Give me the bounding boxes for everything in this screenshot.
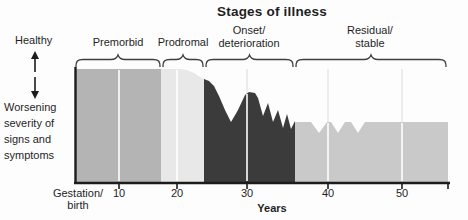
chart-title: Stages of illness	[122, 5, 422, 18]
x-tick-label-20: 20	[147, 187, 207, 199]
y-axis-worsening-label: Worsening severity of signs and symptoms	[4, 99, 76, 163]
arrow-up-head	[31, 51, 39, 59]
stage-label-onset-deterioration: Onset/ deterioration	[189, 24, 309, 50]
healthy-worse-arrow-icon	[31, 51, 39, 99]
x-axis-title: Years	[242, 202, 302, 215]
y-axis-healthy-label: Healthy	[15, 34, 52, 47]
stages-of-illness-figure: Stages of illness Healthy Worsening seve…	[0, 0, 468, 220]
stage-area-premorbid	[75, 69, 161, 182]
stage-area-residual-stable	[295, 122, 448, 182]
stage-brackets	[76, 55, 446, 67]
x-tick-label-10: 10	[89, 187, 149, 199]
stage-areas	[75, 69, 448, 182]
stage-bracket-onset-deterioration	[206, 55, 293, 67]
stage-label-residual-stable: Residual/ stable	[310, 24, 430, 50]
x-tick-label-40: 40	[298, 187, 358, 199]
stage-area-prodromal	[161, 69, 204, 182]
x-tick-label-50: 50	[372, 187, 432, 199]
stage-bracket-prodromal	[163, 55, 203, 67]
x-tick-label-30: 30	[217, 187, 277, 199]
arrow-down-head	[31, 91, 39, 99]
stage-bracket-premorbid	[76, 55, 160, 67]
stage-bracket-residual-stable	[296, 55, 446, 67]
stage-area-onset-deterioration	[204, 79, 295, 182]
